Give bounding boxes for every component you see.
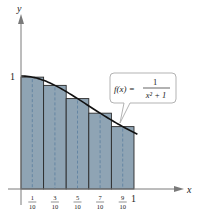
- y-tick-1: 1: [10, 71, 15, 82]
- callout-lhs: f(x) =: [114, 84, 135, 94]
- x-tick-numerator: 3: [53, 194, 56, 201]
- x-tick-numerator: 5: [76, 194, 79, 201]
- x-axis-label: x: [186, 184, 192, 195]
- x-tick-numerator: 7: [98, 194, 102, 201]
- x-axis-arrow-icon: [174, 186, 184, 192]
- midpoint-rectangle: [21, 77, 44, 189]
- midpoint-rule-chart: x y 1 1 110310510710910 f(x) = 1 x² + 1: [0, 0, 200, 215]
- x-tick-numerator: 1: [31, 194, 34, 201]
- x-tick-labels: 110310510710910: [28, 194, 126, 210]
- x-tick-denominator: 10: [97, 203, 104, 210]
- x-tick-denominator: 10: [52, 203, 59, 210]
- y-axis-label: y: [16, 3, 22, 14]
- x-tick-denominator: 10: [29, 203, 36, 210]
- x-tick-denominator: 10: [74, 203, 81, 210]
- x-end-label: 1: [131, 193, 136, 204]
- callout-numerator: 1: [153, 77, 157, 87]
- function-callout: f(x) = 1 x² + 1: [110, 73, 176, 123]
- x-tick-denominator: 10: [119, 203, 126, 210]
- callout-denominator: x² + 1: [145, 90, 167, 100]
- x-tick-numerator: 9: [121, 194, 124, 201]
- y-axis-arrow-icon: [18, 14, 24, 24]
